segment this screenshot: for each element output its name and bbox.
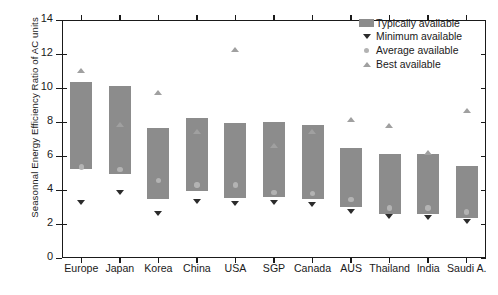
y-tick-right (481, 54, 486, 55)
y-tick-label: 0 (47, 250, 53, 262)
y-tick-right (481, 258, 486, 259)
x-tick-top (81, 15, 82, 20)
x-axis-label: Saudi A. (427, 262, 498, 274)
x-tick-top (196, 15, 197, 20)
bar-swatch-icon (357, 19, 376, 27)
y-tick-label: 6 (47, 148, 53, 160)
circle-icon (357, 48, 376, 53)
y-tick-mark (56, 20, 62, 21)
triangle-up-marker (424, 150, 432, 155)
triangle-up-marker (308, 129, 316, 134)
y-axis-ticks: 02468101214 (0, 0, 62, 258)
chart-legend: Typically availableMinimum availableAver… (357, 17, 485, 71)
bar-europe (70, 82, 92, 169)
bar-canada (302, 125, 324, 199)
y-tick-inner (62, 156, 67, 157)
y-tick-right (481, 156, 486, 157)
y-tick-right (481, 20, 486, 21)
y-tick-label: 2 (47, 216, 53, 228)
bar-sgp (263, 122, 285, 197)
circle-marker (79, 164, 84, 169)
legend-label: Average available (376, 45, 458, 56)
legend-item[interactable]: Minimum available (357, 31, 485, 44)
circle-marker (425, 205, 430, 210)
circle-marker (387, 205, 392, 210)
triangle-down-marker (154, 211, 162, 216)
x-tick-top (350, 15, 351, 20)
y-tick-inner (62, 224, 67, 225)
triangle-up-marker (77, 68, 85, 73)
circle-marker (348, 197, 353, 202)
x-tick-top (235, 15, 236, 20)
triangle-down-marker (308, 202, 316, 207)
x-tick-top (158, 15, 159, 20)
bar-japan (109, 86, 131, 174)
y-tick-right (481, 190, 486, 191)
y-tick-inner (62, 54, 67, 55)
triangle-up-icon (357, 62, 376, 67)
y-tick-label: 12 (41, 46, 53, 58)
triangle-down-marker (385, 214, 393, 219)
triangle-down-marker (77, 200, 85, 205)
x-tick-top (312, 15, 313, 20)
x-tick-top (119, 15, 120, 20)
triangle-up-marker (116, 122, 124, 127)
triangle-up-marker (385, 123, 393, 128)
legend-item[interactable]: Best available (357, 58, 485, 71)
y-tick-label: 4 (47, 182, 53, 194)
triangle-up-marker (231, 47, 239, 52)
legend-item[interactable]: Typically available (357, 17, 485, 30)
legend-label: Best available (376, 59, 441, 70)
circle-marker (117, 167, 122, 172)
triangle-down-marker (193, 199, 201, 204)
triangle-up-marker (347, 117, 355, 122)
y-tick-label: 14 (41, 12, 53, 24)
legend-item[interactable]: Average available (357, 44, 485, 57)
y-tick-inner (62, 122, 67, 123)
circle-marker (271, 190, 276, 195)
legend-label: Minimum available (376, 31, 462, 42)
triangle-up-marker (154, 90, 162, 95)
triangle-down-icon (357, 34, 376, 39)
y-tick-right (481, 224, 486, 225)
y-tick-label: 10 (41, 80, 53, 92)
triangle-down-marker (347, 209, 355, 214)
y-tick-inner (62, 190, 67, 191)
y-tick-label: 8 (47, 114, 53, 126)
y-tick-inner (62, 88, 67, 89)
triangle-up-marker (270, 143, 278, 148)
triangle-down-marker (270, 200, 278, 205)
legend-label: Typically available (376, 18, 460, 29)
triangle-down-marker (116, 190, 124, 195)
chart-figure: Seasonnal Energy Efficiency Ratio of AC … (0, 0, 498, 295)
y-tick-right (481, 88, 486, 89)
triangle-down-marker (424, 215, 432, 220)
y-tick-mark (56, 258, 62, 259)
circle-marker (194, 182, 199, 187)
triangle-down-marker (463, 219, 471, 224)
triangle-down-marker (231, 201, 239, 206)
triangle-up-marker (193, 129, 201, 134)
circle-marker (233, 182, 238, 187)
y-tick-right (481, 122, 486, 123)
x-tick-top (273, 15, 274, 20)
triangle-up-marker (463, 108, 471, 113)
bar-korea (147, 128, 169, 199)
